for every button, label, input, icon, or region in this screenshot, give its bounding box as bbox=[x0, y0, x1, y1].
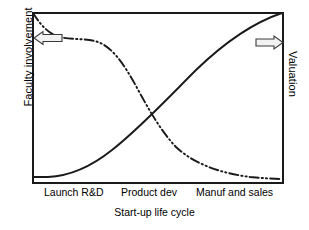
right-pointing-arrow bbox=[256, 36, 283, 49]
figure-container: Faculty involvement Valuation Launch R&D… bbox=[0, 0, 309, 230]
series-faculty-involvement-line bbox=[33, 13, 282, 179]
y-axis-right-label: Valuation bbox=[287, 0, 299, 149]
x-tick-label-manuf-and-sales: Manuf and sales bbox=[196, 186, 273, 198]
x-axis-title: Start-up life cycle bbox=[0, 206, 309, 218]
x-tick-label-launch-rd: Launch R&D bbox=[44, 186, 104, 198]
y-axis-left-label: Faculty involvement bbox=[22, 0, 34, 132]
left-pointing-arrow bbox=[34, 32, 62, 45]
series-valuation-line bbox=[33, 13, 282, 177]
x-tick-label-product-dev: Product dev bbox=[121, 186, 177, 198]
